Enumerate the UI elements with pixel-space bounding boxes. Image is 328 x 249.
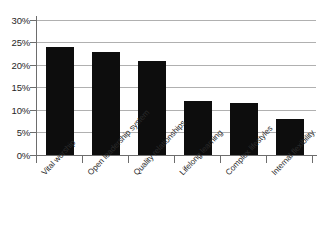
x-axis-label-lifelong-learning: Lifelong learning <box>178 128 224 177</box>
x-axis-labels: Vital worship Open leadership system Qua… <box>0 0 328 249</box>
bar-chart: 30% 25% 20% 15% 10% 5% 0% <box>0 0 328 249</box>
x-axis-label-vital-worship: Vital worship <box>40 138 77 177</box>
x-axis-label-complex-lifestyles: Complex lifestyles <box>224 124 274 177</box>
x-axis-label-internal-flexibility: Internal flexibility <box>270 128 317 177</box>
